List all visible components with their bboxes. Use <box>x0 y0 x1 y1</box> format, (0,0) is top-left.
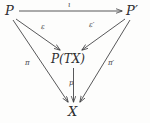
arrow-label-pi-prime: π′ <box>108 60 114 67</box>
arrow-label-p: p <box>69 80 73 87</box>
node-P-of-TX: P(TX) <box>51 53 85 65</box>
arrow-pi-prime <box>80 20 130 102</box>
node-P-prime: P′ <box>126 4 138 17</box>
commutative-diagram-figure: P' : top horizontal --> P(TX) --> P(TX) … <box>0 0 150 123</box>
arrow-label-iota: ι <box>68 2 71 9</box>
node-P: P <box>5 4 14 17</box>
arrow-label-epsilon: ε <box>41 24 45 31</box>
node-X: X <box>68 105 77 118</box>
arrow-label-pi: π <box>25 60 30 67</box>
arrow-label-epsilon-prime: ε′ <box>89 22 94 29</box>
